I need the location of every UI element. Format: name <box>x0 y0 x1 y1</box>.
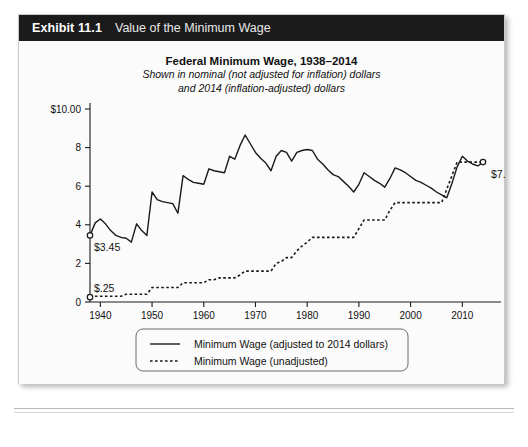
y-axis-tick-labels: 02468$10.00 <box>50 104 81 308</box>
y-axis-tick-label: 4 <box>75 219 81 230</box>
x-axis-tick-label: 1970 <box>244 310 267 321</box>
exhibit-card: Exhibit 11.1 Value of the Minimum Wage F… <box>18 14 505 384</box>
exhibit-caption: Value of the Minimum Wage <box>115 21 271 35</box>
chart-legend: Minimum Wage (adjusted to 2014 dollars)M… <box>136 329 408 371</box>
annotation-start-adjusted: $3.45 <box>94 241 120 253</box>
legend-label: Minimum Wage (unadjusted) <box>194 355 328 367</box>
x-axis-tick-label: 1990 <box>348 310 371 321</box>
chart-series-group <box>90 135 483 297</box>
chart-axes <box>85 103 501 307</box>
page-rule-upper <box>14 408 514 409</box>
series-start-marker-unadjusted <box>87 294 92 299</box>
annotation-end-unadjusted: $7.25 <box>491 168 506 180</box>
x-axis-tick-labels: 19401950196019701980199020002010 <box>89 310 474 321</box>
x-axis-tick-label: 1980 <box>296 310 319 321</box>
y-axis-tick-label: 8 <box>75 142 81 153</box>
chart-body: Federal Minimum Wage, 1938–2014 Shown in… <box>19 41 504 384</box>
y-axis-tick-label: 6 <box>75 181 81 192</box>
page-rule-lower <box>14 412 514 413</box>
y-axis-tick-label: 0 <box>75 297 81 308</box>
y-axis-tick-label: 2 <box>75 258 81 269</box>
x-axis-tick-label: 1950 <box>141 310 164 321</box>
x-axis-tick-label: 1940 <box>89 310 112 321</box>
series-start-marker-adjusted <box>87 233 92 238</box>
exhibit-number: Exhibit 11.1 <box>32 21 102 35</box>
chart-annotations: $3.45$.25$7.25 <box>94 168 506 294</box>
annotation-start-unadjusted: $.25 <box>94 282 115 294</box>
legend-label: Minimum Wage (adjusted to 2014 dollars) <box>194 338 388 350</box>
series-end-marker-unadjusted <box>480 159 485 164</box>
minimum-wage-line-chart: 02468$10.00 1940195019601970198019902000… <box>19 41 506 384</box>
y-axis-tick-label: $10.00 <box>50 104 81 115</box>
x-axis-tick-label: 1960 <box>193 310 216 321</box>
series-line-unadjusted <box>90 162 483 297</box>
exhibit-header: Exhibit 11.1 Value of the Minimum Wage <box>19 15 504 41</box>
series-line-adjusted <box>90 135 483 242</box>
x-axis-tick-label: 2000 <box>399 310 422 321</box>
x-axis-tick-label: 2010 <box>451 310 474 321</box>
